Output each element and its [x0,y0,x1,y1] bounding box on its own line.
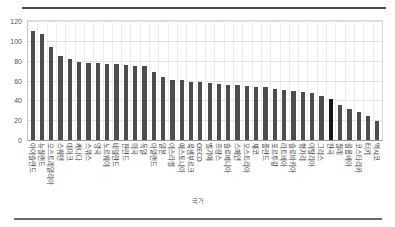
gridline-vertical [261,21,262,140]
gridline-vertical [140,21,141,140]
gridline-vertical [196,21,197,140]
x-axis-tick-label: 헝가리 [297,142,306,200]
bar [366,116,370,140]
y-axis-tick-label: 40 [14,97,22,104]
x-axis-tick-label: 포르투갈 [269,142,278,200]
bar [31,31,35,140]
x-axis-tick-label: 칠레 [334,142,343,200]
x-axis-tick-label-text: 오스트레일리아 [47,143,54,185]
bar [235,85,239,140]
x-axis-tick-label-text: 뉴질랜드 [38,143,45,167]
x-axis-tick-label-text: 미국 [131,143,138,155]
gridline-vertical [345,21,346,140]
x-axis-tick-label: 터키 [362,142,371,200]
gridline-vertical [168,21,169,140]
bar [254,87,258,140]
x-axis-tick-label-text: 헝가리 [299,143,306,161]
gridline-vertical [205,21,206,140]
bar [338,105,342,140]
gridline-vertical [307,21,308,140]
x-axis-tick-label: 노르웨이 [102,142,111,200]
x-axis-tick-label-text: 데마크 [66,143,73,161]
x-axis-tick-label: 아일랜드 [148,142,157,200]
gridline-vertical [270,21,271,140]
bar [189,82,193,140]
x-axis-tick-label: 라트비아 [279,142,288,200]
gridline-vertical [130,21,131,140]
x-axis-tick-label-text: 라트비아 [280,143,287,167]
axis-note: 국가 [0,196,395,205]
x-axis-tick-label: 뉴질랜드 [36,142,45,200]
x-axis-tick-label-text: 영국 [94,143,101,155]
x-axis-tick-label: 슬로베니아 [223,142,232,200]
x-axis-tick-label-text: 멕시코 [373,143,380,161]
x-axis-tick-label: 오스트리아 [241,142,250,200]
x-axis-tick-label: 코스타리카 [353,142,362,200]
x-axis-tick-label: 일본 [157,142,166,200]
x-axis-tick-label: 영국 [92,142,101,200]
bar [96,63,100,140]
gridline-vertical [65,21,66,140]
x-axis-tick-label-text: 슬로베니아 [224,143,231,173]
bar [86,63,90,140]
x-axis-tick-label: 미국 [129,142,138,200]
y-axis-tick-label: 60 [14,77,22,84]
bar [180,80,184,140]
x-axis-tick-label: 캐나다 [74,142,83,200]
x-axis-tick-label: 이스라엘 [167,142,176,200]
x-axis-tick-label-text: 핀란드 [122,143,129,161]
bar [319,96,323,140]
bar [301,92,305,140]
x-axis-tick-label: 스페인 [232,142,241,200]
gridline-vertical [335,21,336,140]
x-axis-tick-label-text: 슬로바키아 [289,143,296,173]
gridline-vertical [233,21,234,140]
bar [217,84,221,140]
x-axis-tick-label-text: 포르투갈 [271,143,278,167]
x-axis-tick-label: 폴란드 [260,142,269,200]
bar [375,121,379,140]
x-axis-tick-label: OECD [195,142,204,200]
gridline-vertical [103,21,104,140]
x-axis: 아이슬란드뉴질랜드오스트레일리아스웨덴데마크캐나다스위스영국노르웨이네덜란드핀란… [27,142,383,200]
top-rule [22,7,386,9]
x-axis-tick-label-text: OECD [196,143,203,162]
x-axis-tick-label-text: 아일랜드 [150,143,157,167]
gridline-vertical [224,21,225,140]
bottom-rule [14,218,382,220]
gridline-vertical [75,21,76,140]
y-axis: 020406080100120 [0,20,25,142]
gridline-vertical [112,21,113,140]
x-axis-tick-label-text: 에스토니아 [177,143,184,173]
bar [152,72,156,140]
gridline-vertical [354,21,355,140]
x-axis-tick-label: 오스트레일리아 [46,142,55,200]
x-axis-tick-label-text: 캐나다 [75,143,82,161]
bar [263,87,267,140]
gridline-vertical [280,21,281,140]
x-axis-tick-label-text: 콜롬비아 [345,143,352,167]
bar [198,82,202,140]
gridline-vertical [252,21,253,140]
chart-figure: 020406080100120 아이슬란드뉴질랜드오스트레일리아스웨덴데마크캐나… [0,0,395,227]
x-axis-tick-label: 네덜란드 [111,142,120,200]
bar [124,65,128,140]
gridline-vertical [373,21,374,140]
x-axis-tick-label: 데마크 [64,142,73,200]
bar [282,90,286,140]
x-axis-tick-label: 핀란드 [120,142,129,200]
gridline-vertical [298,21,299,140]
gridline-vertical [186,21,187,140]
x-axis-tick-label: 스웨덴 [55,142,64,200]
x-axis-tick-label-text: 한국 [327,143,334,155]
bar [142,66,146,140]
gridline-vertical [214,21,215,140]
gridline-vertical [242,21,243,140]
y-axis-tick-label: 20 [14,117,22,124]
gridline-vertical [93,21,94,140]
x-axis-tick-label: 룩셈부르크 [185,142,194,200]
gridline-vertical [56,21,57,140]
bar [161,77,165,140]
gridline-vertical [326,21,327,140]
gridline-vertical [47,21,48,140]
